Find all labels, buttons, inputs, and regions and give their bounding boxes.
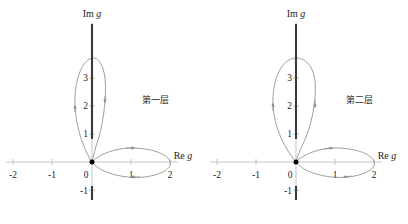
y-tick-label: 2 (83, 101, 88, 111)
origin-dot (90, 160, 95, 165)
x-tick-label: 0 (84, 170, 89, 180)
x-tick-label: -2 (213, 170, 221, 180)
direction-arrows (273, 100, 352, 177)
arrow-horizontal-loop-top (324, 148, 332, 149)
curves-group (75, 58, 171, 177)
x-tick-label: 2 (372, 170, 377, 180)
sheet-label-second: 第二层 (346, 94, 373, 105)
y-tick-label: 1 (287, 129, 292, 139)
y-tick-label: 2 (287, 101, 292, 111)
vertical-loop-curve (75, 58, 106, 162)
plot-panel-second-sheet: -2 -1 0 1 2 -1 1 2 3 Re g Im g (204, 0, 408, 224)
x-tick-label: -1 (252, 170, 260, 180)
x-tick-label: 2 (168, 170, 173, 180)
vertical-loop-curve (273, 58, 315, 162)
x-tick-label: -2 (9, 170, 17, 180)
x-tick-label: 0 (288, 170, 293, 180)
origin-dot (294, 160, 299, 165)
x-tick-label: 1 (129, 170, 134, 180)
figure-root: -2 -1 0 1 2 -1 1 2 3 Re g Im g (0, 0, 408, 224)
y-tick-label: 3 (83, 73, 88, 83)
sheet-label-first: 第一层 (142, 94, 169, 105)
y-tick-label: 3 (287, 73, 292, 83)
y-tick-label: 1 (83, 129, 88, 139)
x-tick-label: -1 (48, 170, 56, 180)
plot-panel-first-sheet: -2 -1 0 1 2 -1 1 2 3 Re g Im g (0, 0, 204, 224)
x-axis-title: Re g (378, 150, 397, 161)
x-axis-title: Re g (174, 150, 193, 161)
y-axis-title: Im g (287, 8, 306, 19)
y-axis-title: Im g (83, 8, 102, 19)
y-tick-label: -1 (284, 186, 292, 196)
y-tick-label: -1 (80, 186, 88, 196)
x-tick-label: 1 (333, 170, 338, 180)
